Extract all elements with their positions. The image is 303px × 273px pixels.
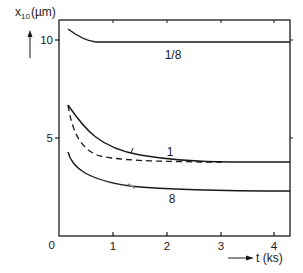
x-tick-label-3: 3 <box>218 240 224 252</box>
y-axis-arrowhead-icon <box>28 30 33 37</box>
curve-marker <box>131 148 133 153</box>
y-tick-label-10: 10 <box>40 34 53 46</box>
x-tick-label-1: 1 <box>110 240 116 252</box>
x-tick-label-2: 2 <box>164 240 170 252</box>
series-label-1: 1 <box>167 145 174 159</box>
series-1-8-line <box>68 29 290 42</box>
x-axis-label: t (ks) <box>256 251 283 265</box>
y-tick-label-5: 5 <box>47 132 53 144</box>
series-label-8: 8 <box>169 192 176 206</box>
chart: 10 5 0 1 2 3 4 x10(µm) t (ks) 1/8 1 8 <box>0 0 303 273</box>
series-8-line <box>68 152 290 191</box>
x-axis-arrowhead-icon <box>246 256 254 261</box>
origin-label: 0 <box>49 239 55 251</box>
series-1-line <box>68 105 290 162</box>
series-label-1-8: 1/8 <box>165 48 182 62</box>
y-axis-label: x10(µm) <box>15 5 56 21</box>
